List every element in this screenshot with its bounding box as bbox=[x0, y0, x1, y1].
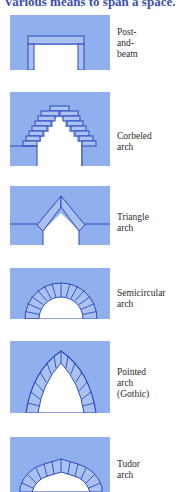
semicircular-arch-label: Semicircular arch bbox=[117, 288, 166, 310]
triangle-arch-icon bbox=[10, 186, 110, 245]
post-and-beam-label: Post- and- beam bbox=[117, 27, 138, 60]
diagram-title: Various means to span a space. bbox=[4, 0, 175, 10]
triangle-arch-diagram bbox=[10, 186, 110, 245]
semicircular-arch-icon bbox=[10, 268, 110, 319]
tudor-arch-icon bbox=[10, 437, 110, 492]
post-and-beam-icon bbox=[10, 15, 110, 70]
corbeled-arch-diagram bbox=[10, 92, 110, 166]
triangle-arch-label: Triangle arch bbox=[117, 212, 149, 234]
corbeled-arch-icon bbox=[10, 92, 110, 166]
tudor-arch-label: Tudor arch bbox=[117, 459, 140, 481]
tudor-arch-diagram bbox=[10, 437, 110, 492]
corbeled-arch-label: Corbeled arch bbox=[117, 131, 152, 153]
post-and-beam-diagram bbox=[10, 15, 110, 70]
pointed-arch-icon bbox=[10, 341, 110, 413]
pointed-arch-diagram bbox=[10, 341, 110, 413]
pointed-arch-label: Pointed arch (Gothic) bbox=[117, 367, 149, 400]
semicircular-arch-diagram bbox=[10, 268, 110, 319]
